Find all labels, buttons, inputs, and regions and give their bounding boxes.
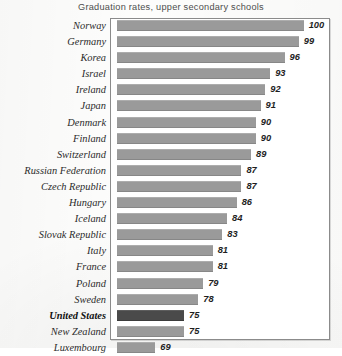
- bar-value-label: 90: [261, 133, 271, 144]
- category-label: Germany: [0, 35, 106, 48]
- bar: [117, 133, 256, 144]
- bar-chart-row: Germany99: [0, 34, 342, 50]
- category-label: Ireland: [0, 83, 106, 96]
- bar-chart-row: Iceland84: [0, 211, 342, 227]
- bar-value-label: 75: [189, 310, 199, 321]
- bar-chart-rows: Norway100Germany99Korea96Israel93Ireland…: [0, 18, 342, 356]
- bar: [117, 52, 285, 63]
- bar-value-label: 81: [218, 245, 228, 256]
- category-label: Italy: [0, 244, 106, 257]
- category-label: Russian Federation: [0, 164, 106, 177]
- bar-value-label: 99: [304, 36, 314, 47]
- category-label: Iceland: [0, 212, 106, 225]
- bar: [117, 310, 184, 321]
- bar-chart-row: Poland79: [0, 276, 342, 292]
- bar: [117, 197, 237, 208]
- category-label: Luxembourg: [0, 341, 106, 354]
- bar: [117, 84, 265, 95]
- bar-track: 90: [117, 117, 330, 128]
- bar: [117, 117, 256, 128]
- bar-value-label: 89: [256, 149, 266, 160]
- category-label: Norway: [0, 19, 106, 32]
- bar: [117, 213, 227, 224]
- bar-track: 75: [117, 310, 330, 321]
- bar-track: 99: [117, 36, 330, 47]
- bar: [117, 294, 198, 305]
- bar-track: 96: [117, 52, 330, 63]
- bar-track: 81: [117, 261, 330, 272]
- bar: [117, 181, 241, 192]
- bar-value-label: 81: [218, 261, 228, 272]
- bar-chart-row: Russian Federation87: [0, 163, 342, 179]
- bar-chart-row: Israel93: [0, 66, 342, 82]
- bar-chart-row: Switzerland89: [0, 147, 342, 163]
- bar-track: 90: [117, 133, 330, 144]
- bar-chart-row: Finland90: [0, 131, 342, 147]
- bar-track: 93: [117, 68, 330, 79]
- bar-chart-row: Italy81: [0, 243, 342, 259]
- bar-value-label: 86: [242, 197, 252, 208]
- bar-chart-row: France81: [0, 259, 342, 275]
- bar-value-label: 79: [208, 278, 218, 289]
- category-label: Poland: [0, 277, 106, 290]
- category-label: New Zealand: [0, 325, 106, 338]
- category-label: France: [0, 260, 106, 273]
- bar-chart-row: Korea96: [0, 50, 342, 66]
- category-label: Israel: [0, 67, 106, 80]
- bar-track: 75: [117, 326, 330, 337]
- bar-track: 86: [117, 197, 330, 208]
- bar-value-label: 93: [275, 68, 285, 79]
- bar-chart-row: Denmark90: [0, 115, 342, 131]
- bar-value-label: 84: [232, 213, 242, 224]
- bar-track: 87: [117, 181, 330, 192]
- category-label: Finland: [0, 132, 106, 145]
- bar-chart-row: Luxembourg69: [0, 340, 342, 356]
- bar-value-label: 96: [290, 52, 300, 63]
- bar-value-label: 87: [246, 181, 256, 192]
- bar-track: 69: [117, 342, 330, 353]
- bar: [117, 278, 203, 289]
- bar-chart-row: United States75: [0, 308, 342, 324]
- bar: [117, 149, 251, 160]
- bar-track: 78: [117, 294, 330, 305]
- bar-chart-row: Norway100: [0, 18, 342, 34]
- bar-value-label: 90: [261, 117, 271, 128]
- category-label: Czech Republic: [0, 180, 106, 193]
- bar: [117, 68, 270, 79]
- bar-value-label: 100: [309, 20, 325, 31]
- bar: [117, 229, 222, 240]
- bar-track: 87: [117, 165, 330, 176]
- bar-value-label: 69: [160, 342, 170, 353]
- bar-chart-row: Slovak Republic83: [0, 227, 342, 243]
- bar-chart-row: Hungary86: [0, 195, 342, 211]
- bar-chart-row: Czech Republic87: [0, 179, 342, 195]
- bar-value-label: 75: [189, 326, 199, 337]
- bar: [117, 36, 299, 47]
- bar-value-label: 78: [203, 294, 213, 305]
- bar-track: 81: [117, 245, 330, 256]
- bar: [117, 100, 261, 111]
- bar-chart-row: Sweden78: [0, 292, 342, 308]
- category-label: Sweden: [0, 293, 106, 306]
- bar-track: 79: [117, 278, 330, 289]
- category-label: Slovak Republic: [0, 228, 106, 241]
- category-label: Japan: [0, 99, 106, 112]
- bar-chart-row: Japan91: [0, 98, 342, 114]
- category-label: Switzerland: [0, 148, 106, 161]
- bar: [117, 165, 241, 176]
- bar-chart-row: New Zealand75: [0, 324, 342, 340]
- chart-title: Graduation rates, upper secondary school…: [0, 2, 342, 12]
- bar-track: 83: [117, 229, 330, 240]
- bar-track: 84: [117, 213, 330, 224]
- bar-track: 91: [117, 100, 330, 111]
- bar-value-label: 92: [270, 84, 280, 95]
- bar-value-label: 91: [266, 100, 276, 111]
- category-label: Denmark: [0, 116, 106, 129]
- bar: [117, 20, 304, 31]
- bar-track: 92: [117, 84, 330, 95]
- bar-track: 89: [117, 149, 330, 160]
- bar-value-label: 87: [246, 165, 256, 176]
- bar-chart-row: Ireland92: [0, 82, 342, 98]
- bar: [117, 245, 213, 256]
- bar-track: 100: [117, 20, 330, 31]
